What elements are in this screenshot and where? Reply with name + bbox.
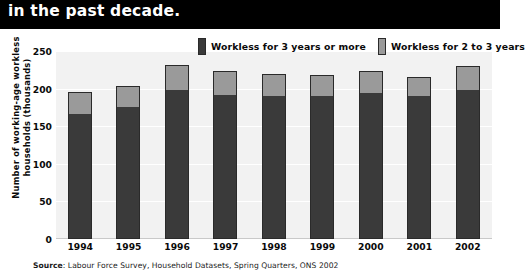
legend-label-two_to_three: Workless for 2 to 3 years [391,41,525,52]
bar-segment-three-plus-1999[interactable] [311,96,333,238]
source-note: Source: Labour Force Survey, Household D… [33,261,338,270]
bar-slot-2000 [347,51,395,239]
bar-segment-three-plus-1997[interactable] [214,95,236,238]
legend-item-two_to_three[interactable]: Workless for 2 to 3 years [378,38,525,55]
stacked-bar-1996[interactable] [165,65,189,239]
bar-segment-three-plus-1998[interactable] [263,96,285,238]
bar-segment-two-to-three-2001[interactable] [408,78,430,95]
legend-label-three_plus: Workless for 3 years or more [211,41,366,52]
source-label: Source [33,261,63,270]
stacked-bar-2001[interactable] [407,77,431,239]
bar-segment-two-to-three-1999[interactable] [311,76,333,96]
stacked-bar-1997[interactable] [213,71,237,239]
y-tick-label-250: 250 [18,46,52,57]
bar-segment-three-plus-1995[interactable] [117,107,139,238]
x-axis-ticks: 199419951996199719981999200020012002 [56,241,492,257]
source-text: : Labour Force Survey, Household Dataset… [63,261,339,270]
bar-slot-1999 [298,51,346,239]
chart-figure: Number of working-age workless household… [0,29,500,276]
bar-segment-three-plus-2002[interactable] [457,90,479,238]
x-tick-label-2001: 2001 [395,241,443,252]
bar-segment-two-to-three-2000[interactable] [360,72,382,93]
bar-segment-three-plus-2000[interactable] [360,93,382,238]
bar-slot-1996 [153,51,201,239]
x-tick-label-1995: 1995 [104,241,152,252]
legend-swatch-two_to_three [378,38,386,55]
x-tick-label-1996: 1996 [153,241,201,252]
stacked-bar-2000[interactable] [359,71,383,239]
x-tick-label-1998: 1998 [250,241,298,252]
bar-segment-two-to-three-1996[interactable] [166,66,188,90]
page-title: in the past decade. [8,1,180,22]
y-tick-label-0: 0 [18,234,52,245]
y-tick-label-100: 100 [18,158,52,169]
bar-series-group [56,51,492,239]
x-tick-label-1994: 1994 [56,241,104,252]
stacked-bar-1998[interactable] [262,74,286,239]
stacked-bar-2002[interactable] [456,66,480,239]
stacked-bar-1995[interactable] [116,86,140,239]
x-tick-label-1997: 1997 [201,241,249,252]
bar-segment-three-plus-2001[interactable] [408,96,430,238]
bar-slot-1997 [201,51,249,239]
bar-slot-1994 [56,51,104,239]
x-tick-label-2000: 2000 [347,241,395,252]
legend-item-three_plus[interactable]: Workless for 3 years or more [198,38,366,55]
bar-segment-three-plus-1994[interactable] [69,114,91,238]
stacked-bar-1994[interactable] [68,92,92,239]
bar-segment-two-to-three-1994[interactable] [69,93,91,114]
x-tick-label-2002: 2002 [444,241,492,252]
bar-slot-1998 [250,51,298,239]
chart-legend: Workless for 3 years or moreWorkless for… [198,38,498,56]
y-tick-label-50: 50 [18,196,52,207]
title-band: in the past decade. [0,0,500,29]
stacked-bar-1999[interactable] [310,75,334,239]
bar-segment-two-to-three-1998[interactable] [263,75,285,95]
bar-segment-two-to-three-2002[interactable] [457,67,479,90]
y-axis-ticks: 050100150200250 [14,51,52,239]
bar-segment-three-plus-1996[interactable] [166,90,188,238]
x-tick-label-1999: 1999 [298,241,346,252]
legend-swatch-three_plus [198,38,206,55]
bar-segment-two-to-three-1995[interactable] [117,87,139,107]
bar-slot-2001 [395,51,443,239]
y-tick-label-200: 200 [18,83,52,94]
bar-slot-2002 [444,51,492,239]
bar-slot-1995 [104,51,152,239]
bar-segment-two-to-three-1997[interactable] [214,72,236,95]
y-tick-label-150: 150 [18,121,52,132]
